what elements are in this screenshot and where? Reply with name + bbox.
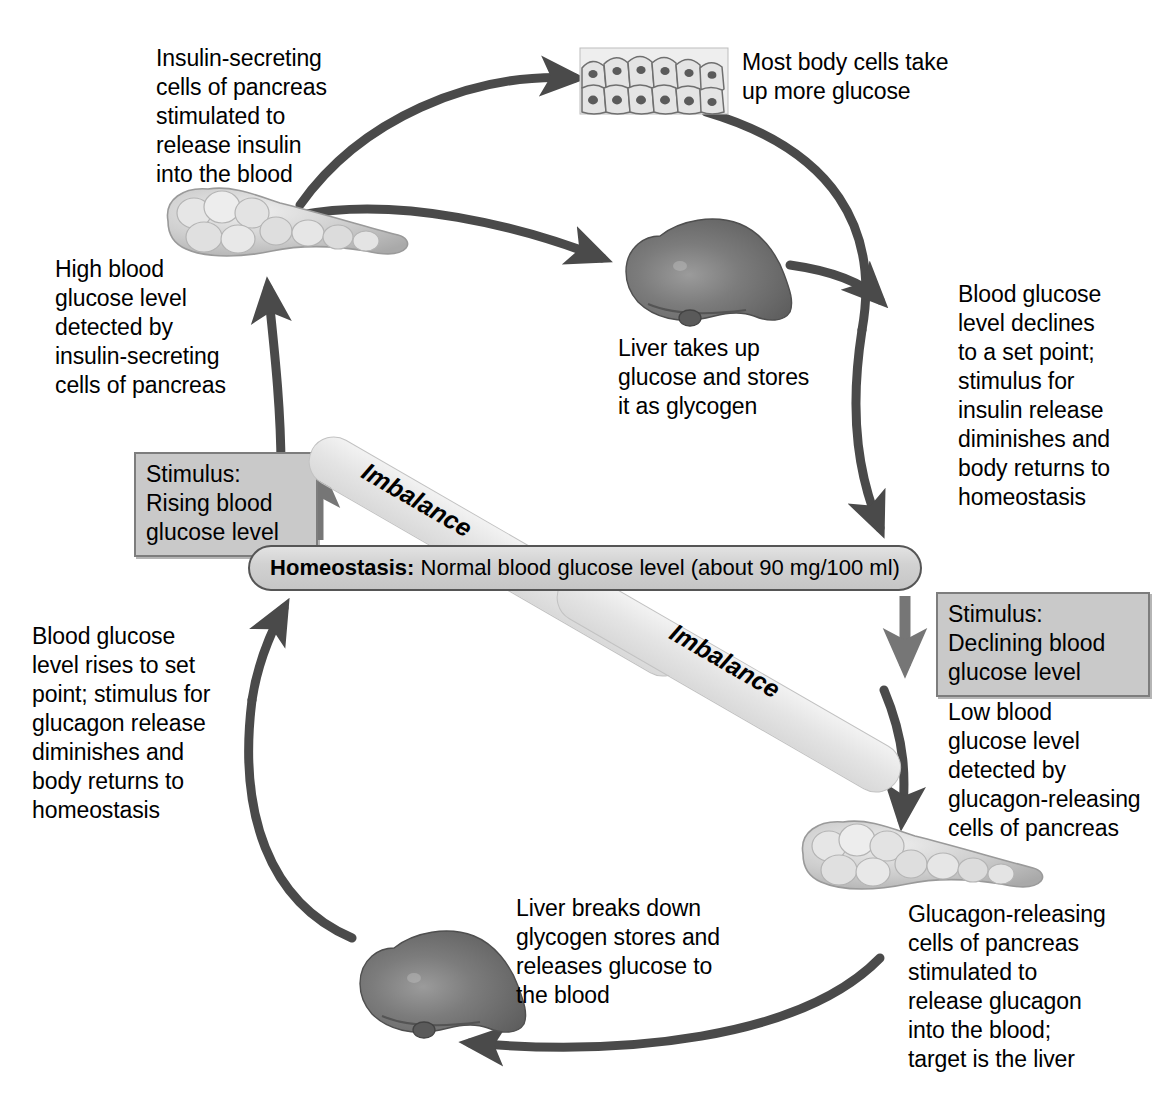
label-body-cells: Most body cells take up more glucose (742, 48, 982, 106)
stimulus-rising-box: Stimulus: Rising blood glucose level (134, 452, 318, 557)
liver-bottom-illustration (360, 931, 526, 1038)
label-blood-glucose-declines: Blood glucose level declines to a set po… (958, 280, 1148, 512)
body-cells-tissue-illustration (580, 48, 728, 114)
stimulus-declining-box: Stimulus: Declining blood glucose level (936, 592, 1150, 697)
pancreas-top-illustration (167, 188, 407, 256)
label-glucagon-releasing: Glucagon-releasing cells of pancreas sti… (908, 900, 1128, 1074)
label-high-blood-glucose: High blood glucose level detected by ins… (55, 255, 285, 400)
liver-top-illustration (626, 219, 792, 326)
homeostasis-bold-label: Homeostasis: (270, 555, 414, 580)
label-liver-breaks-down: Liver breaks down glycogen stores and re… (516, 894, 766, 1010)
label-blood-glucose-rises: Blood glucose level rises to set point; … (32, 622, 252, 825)
homeostasis-text: Homeostasis: Normal blood glucose level … (270, 555, 900, 581)
label-low-blood-glucose: Low blood glucose level detected by gluc… (948, 698, 1160, 843)
glucose-homeostasis-diagram: Imbalance Imbalance Homeostasis: Normal … (0, 0, 1160, 1112)
label-liver-takes-up: Liver takes up glucose and stores it as … (618, 334, 848, 421)
homeostasis-bar: Homeostasis: Normal blood glucose level … (248, 545, 922, 591)
homeostasis-rest-label: Normal blood glucose level (about 90 mg/… (414, 555, 899, 580)
label-insulin-secreting: Insulin-secreting cells of pancreas stim… (156, 44, 396, 189)
